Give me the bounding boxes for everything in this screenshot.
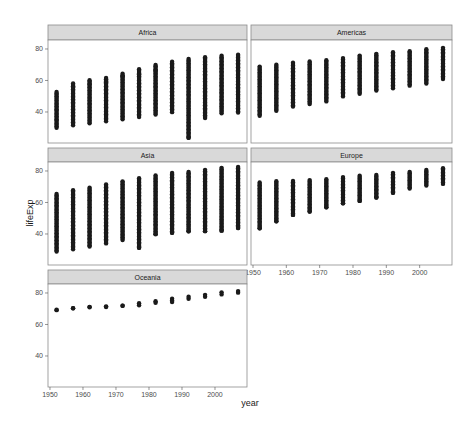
data-point bbox=[407, 49, 411, 53]
data-point-outlier bbox=[257, 226, 261, 230]
data-point bbox=[274, 63, 278, 67]
data-point bbox=[324, 177, 328, 181]
data-point bbox=[357, 53, 361, 57]
x-tick-label: 1990 bbox=[174, 391, 190, 398]
facet-strip-label: Europe bbox=[340, 152, 363, 160]
data-point bbox=[170, 171, 174, 175]
data-point bbox=[104, 182, 108, 186]
facet-panel-oceania: Oceania406080195019601970198019902000 bbox=[35, 270, 247, 398]
x-axis-title: year bbox=[241, 398, 259, 408]
data-point bbox=[441, 46, 445, 50]
data-point bbox=[274, 179, 278, 183]
data-point-outlier bbox=[374, 195, 378, 199]
data-point-outlier bbox=[71, 85, 75, 89]
data-point-outlier bbox=[137, 72, 141, 76]
data-point bbox=[153, 63, 157, 67]
data-point bbox=[374, 52, 378, 56]
y-tick-label: 40 bbox=[35, 230, 43, 237]
y-tick-label: 80 bbox=[35, 167, 43, 174]
data-point bbox=[236, 165, 240, 169]
y-tick-label: 60 bbox=[35, 199, 43, 206]
data-point bbox=[391, 171, 395, 175]
data-point bbox=[153, 299, 157, 303]
data-point-outlier bbox=[203, 229, 207, 233]
x-tick-label: 1960 bbox=[279, 269, 295, 276]
data-point bbox=[71, 188, 75, 192]
y-tick-label: 80 bbox=[35, 45, 43, 52]
data-point bbox=[341, 56, 345, 60]
x-tick-label: 1960 bbox=[75, 391, 91, 398]
data-point bbox=[203, 293, 207, 297]
data-point bbox=[203, 55, 207, 59]
data-point bbox=[186, 57, 190, 61]
data-point bbox=[170, 297, 174, 301]
data-point bbox=[170, 60, 174, 64]
panel-background bbox=[48, 40, 247, 143]
facet-strip-label: Asia bbox=[141, 152, 155, 159]
data-point-outlier bbox=[341, 201, 345, 205]
data-point bbox=[120, 304, 124, 308]
data-point-outlier bbox=[186, 229, 190, 233]
data-point bbox=[87, 305, 91, 309]
x-tick-label: 1990 bbox=[379, 269, 395, 276]
data-point-outlier bbox=[391, 191, 395, 195]
y-tick-label: 60 bbox=[35, 321, 43, 328]
data-point bbox=[357, 174, 361, 178]
data-point bbox=[391, 50, 395, 54]
x-tick-label: 1970 bbox=[108, 391, 124, 398]
facet-panels: Africa406080AmericasAsia406080Europe1950… bbox=[35, 25, 452, 398]
panel-background bbox=[251, 162, 452, 265]
data-point-outlier bbox=[153, 69, 157, 73]
data-point bbox=[257, 180, 261, 184]
data-point bbox=[341, 175, 345, 179]
x-tick-label: 1980 bbox=[345, 269, 361, 276]
data-point-outlier bbox=[236, 226, 240, 230]
x-tick-label: 1950 bbox=[245, 269, 261, 276]
data-point bbox=[291, 60, 295, 64]
data-point-outlier bbox=[307, 209, 311, 213]
data-point bbox=[137, 176, 141, 180]
data-point-outlier bbox=[170, 231, 174, 235]
facet-strip-label: Africa bbox=[139, 29, 157, 36]
data-point bbox=[219, 166, 223, 170]
data-point bbox=[407, 170, 411, 174]
y-tick-label: 60 bbox=[35, 77, 43, 84]
data-point bbox=[153, 173, 157, 177]
data-point bbox=[186, 295, 190, 299]
x-tick-label: 2000 bbox=[412, 269, 428, 276]
faceted-scatter-chart: Africa406080AmericasAsia406080Europe1950… bbox=[0, 0, 475, 421]
facet-strip-label: Oceania bbox=[134, 274, 160, 281]
x-tick-label: 2000 bbox=[207, 391, 223, 398]
y-tick-label: 40 bbox=[35, 108, 43, 115]
data-point bbox=[324, 58, 328, 62]
data-point bbox=[87, 185, 91, 189]
data-point bbox=[307, 59, 311, 63]
x-tick-label: 1950 bbox=[42, 391, 58, 398]
y-axis-title: lifeExp bbox=[25, 199, 35, 226]
facet-panel-africa: Africa406080 bbox=[35, 25, 247, 143]
data-point bbox=[441, 166, 445, 170]
x-tick-label: 1980 bbox=[141, 391, 157, 398]
data-point-outlier bbox=[87, 82, 91, 86]
data-point bbox=[120, 179, 124, 183]
data-point-outlier bbox=[120, 74, 124, 78]
facet-strip-label: Americas bbox=[337, 29, 367, 36]
data-point-outlier bbox=[104, 79, 108, 83]
data-point bbox=[424, 168, 428, 172]
data-point-outlier bbox=[153, 232, 157, 236]
x-tick-label: 1970 bbox=[312, 269, 328, 276]
data-point bbox=[186, 170, 190, 174]
panel-background bbox=[48, 284, 247, 387]
data-point-outlier bbox=[324, 205, 328, 209]
data-point bbox=[424, 47, 428, 51]
data-point bbox=[236, 52, 240, 56]
data-point-outlier bbox=[186, 136, 190, 140]
data-point bbox=[257, 64, 261, 68]
data-point-outlier bbox=[137, 246, 141, 250]
y-tick-label: 80 bbox=[35, 289, 43, 296]
data-point-outlier bbox=[274, 219, 278, 223]
data-point bbox=[236, 289, 240, 293]
data-point bbox=[54, 307, 58, 311]
data-point bbox=[219, 290, 223, 294]
data-point bbox=[137, 301, 141, 305]
